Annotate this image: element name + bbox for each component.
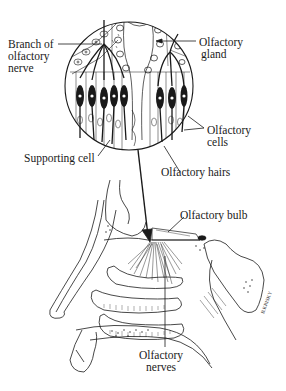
label-olfactory-cells: Olfactory cells xyxy=(207,124,251,148)
label-branch-of-olfactory-nerve: Branch of olfactory nerve xyxy=(8,38,54,74)
middle-concha xyxy=(91,290,181,313)
label-nerves-line2: nerves xyxy=(139,361,183,373)
label-gland-line1: Olfactory xyxy=(199,36,243,48)
label-olfactory-bulb: Olfactory bulb xyxy=(180,209,247,221)
label-gland-line2: gland xyxy=(199,48,243,60)
palate-stipple xyxy=(111,329,148,336)
label-branch-line2: olfactory xyxy=(8,50,54,62)
label-branch-line3: nerve xyxy=(8,62,54,74)
sphenoid xyxy=(204,240,264,313)
label-cells-line1: Olfactory xyxy=(207,124,251,136)
superior-concha xyxy=(107,266,183,289)
olfactory-gland-duct xyxy=(112,22,190,140)
pointer-arrow xyxy=(138,150,148,236)
inferior-concha xyxy=(99,314,184,340)
label-olfactory-nerves: Olfactory nerves xyxy=(139,349,183,373)
label-nerves-line1: Olfactory xyxy=(139,349,183,361)
sphenoid-stipple xyxy=(105,225,252,292)
olfactory-bulb xyxy=(152,228,200,240)
nerve-branch-left xyxy=(80,20,124,80)
upper-lip xyxy=(70,330,97,372)
label-supporting-cell: Supporting cell xyxy=(24,152,95,164)
epithelium-magnified-view xyxy=(65,20,193,150)
leader-cells xyxy=(184,116,204,130)
label-olfactory-gland: Olfactory gland xyxy=(199,36,243,60)
label-branch-line1: Branch of xyxy=(8,38,54,50)
label-olfactory-hairs: Olfactory hairs xyxy=(161,166,230,178)
label-cells-line2: cells xyxy=(207,136,251,148)
